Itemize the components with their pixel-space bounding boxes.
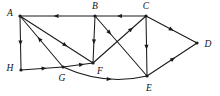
graph-edge bbox=[63, 63, 93, 67]
graph-edge bbox=[20, 16, 93, 63]
vertex-label-h: H bbox=[6, 63, 15, 73]
vertex-label-f: F bbox=[96, 66, 103, 76]
arrowhead-icon bbox=[54, 14, 59, 18]
graph-vertex-f bbox=[91, 61, 94, 64]
arrowhead-icon bbox=[170, 57, 175, 61]
vertex-label-e: E bbox=[145, 83, 152, 93]
edges-layer bbox=[20, 16, 197, 79]
arrowhead-icon bbox=[92, 39, 96, 44]
vertex-label-g: G bbox=[59, 73, 66, 83]
graph-vertex-c bbox=[144, 14, 147, 17]
arrowhead-icon bbox=[117, 14, 122, 18]
arrowhead-icon bbox=[41, 66, 46, 70]
vertex-label-d: D bbox=[204, 39, 212, 49]
graph-vertex-h bbox=[19, 68, 22, 71]
vertex-label-b: B bbox=[92, 1, 98, 11]
arrowhead-icon bbox=[107, 77, 112, 81]
directed-graph-figure: ABCDEFGH bbox=[0, 0, 220, 96]
vertex-label-c: C bbox=[143, 1, 150, 11]
graph-vertex-e bbox=[145, 74, 148, 77]
graph-edge bbox=[20, 16, 63, 67]
vertex-label-a: A bbox=[6, 8, 13, 18]
arrowhead-icon bbox=[144, 45, 148, 50]
graph-vertex-g bbox=[61, 65, 64, 68]
graph-vertex-a bbox=[18, 14, 21, 17]
graph-vertex-d bbox=[195, 41, 198, 44]
graph-vertex-b bbox=[93, 14, 96, 17]
arrowhead-icon bbox=[18, 40, 22, 45]
arrowhead-icon bbox=[79, 63, 84, 67]
graph-canvas: ABCDEFGH bbox=[0, 0, 220, 96]
arrowhead-icon bbox=[62, 42, 67, 46]
graph-edge bbox=[63, 67, 147, 79]
